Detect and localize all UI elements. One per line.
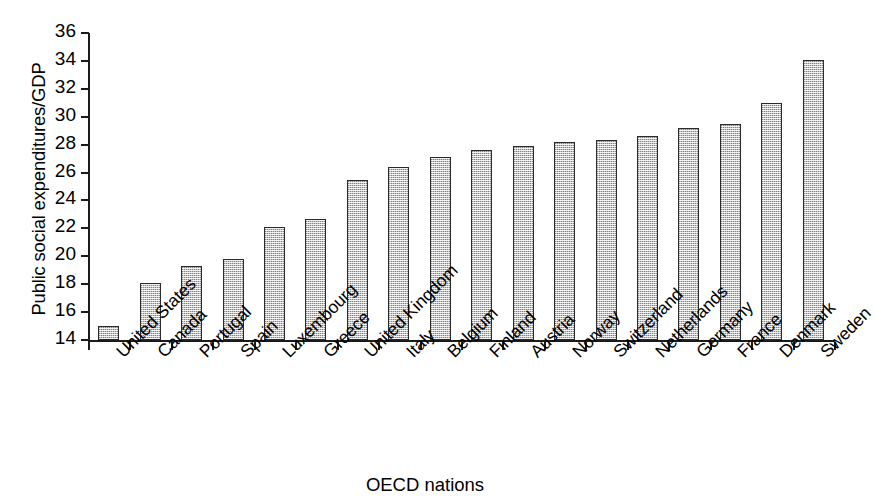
y-axis-title: Public social expenditures/GDP [28, 29, 50, 349]
y-axis-line [88, 33, 90, 342]
y-tick-32: 32 [81, 88, 89, 90]
x-tick-0 [88, 342, 90, 350]
y-tick-label-30: 30 [55, 104, 76, 126]
y-tick-30: 30 [81, 116, 89, 118]
y-tick-36: 36 [81, 32, 89, 34]
bar-united-states [98, 326, 119, 340]
bar-belgium [430, 157, 451, 340]
y-tick-label-14: 14 [55, 327, 76, 349]
y-tick-label-22: 22 [55, 215, 76, 237]
bar-sweden [803, 60, 824, 340]
y-tick-label-18: 18 [55, 271, 76, 293]
y-tick-label-20: 20 [55, 243, 76, 265]
y-tick-18: 18 [81, 283, 89, 285]
y-tick-28: 28 [81, 144, 89, 146]
y-tick-label-34: 34 [55, 48, 76, 70]
bar-denmark [761, 103, 782, 340]
y-tick-label-26: 26 [55, 160, 76, 182]
y-tick-20: 20 [81, 255, 89, 257]
cropped-text-artifact: , , [150, 0, 570, 5]
y-tick-label-36: 36 [55, 20, 76, 42]
y-tick-26: 26 [81, 172, 89, 174]
y-tick-label-24: 24 [55, 187, 76, 209]
y-tick-34: 34 [81, 60, 89, 62]
x-axis-title: OECD nations [0, 474, 850, 496]
y-tick-14: 14 [81, 339, 89, 341]
y-tick-label-16: 16 [55, 299, 76, 321]
y-tick-label-32: 32 [55, 76, 76, 98]
y-tick-16: 16 [81, 311, 89, 313]
y-tick-22: 22 [81, 227, 89, 229]
y-tick-label-28: 28 [55, 132, 76, 154]
y-tick-24: 24 [81, 199, 89, 201]
